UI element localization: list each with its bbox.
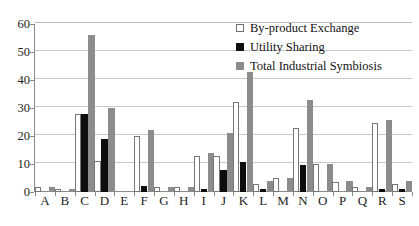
x-tick-mark bbox=[293, 192, 294, 196]
bar-group bbox=[114, 24, 134, 192]
bar bbox=[134, 136, 140, 192]
bar bbox=[81, 114, 87, 192]
x-tick-label: O bbox=[318, 194, 327, 207]
x-tick-label: E bbox=[120, 194, 128, 207]
x-tick-label: A bbox=[40, 194, 49, 207]
legend-item: By-product Exchange bbox=[236, 21, 382, 35]
bar-group bbox=[392, 24, 412, 192]
bar bbox=[372, 123, 378, 192]
bar-group bbox=[194, 24, 214, 192]
bar bbox=[273, 178, 279, 192]
bar bbox=[392, 184, 398, 192]
bar bbox=[253, 184, 259, 192]
filled-gray-square-icon bbox=[236, 62, 244, 70]
bar-chart: 0102030405060 ABCDEFGHIJKLMNOPQRS By-pro… bbox=[0, 0, 419, 226]
bar bbox=[194, 156, 200, 192]
x-tick-mark bbox=[114, 192, 115, 196]
bar bbox=[141, 186, 147, 192]
x-tick-label: R bbox=[378, 194, 387, 207]
legend-item-label: Total Industrial Symbiosis bbox=[250, 60, 382, 73]
x-tick-label: D bbox=[100, 194, 109, 207]
x-axis: ABCDEFGHIJKLMNOPQRS bbox=[35, 194, 412, 216]
bar-group bbox=[154, 24, 174, 192]
x-tick-label: I bbox=[201, 194, 205, 207]
x-tick-mark bbox=[194, 192, 195, 196]
x-tick-mark bbox=[412, 192, 413, 196]
bar bbox=[293, 128, 299, 192]
x-tick-mark bbox=[352, 192, 353, 196]
x-tick-mark bbox=[174, 192, 175, 196]
bar-group bbox=[134, 24, 154, 192]
x-tick-mark bbox=[154, 192, 155, 196]
bar bbox=[75, 114, 81, 192]
x-tick-mark bbox=[214, 192, 215, 196]
bar bbox=[220, 170, 226, 192]
x-tick-mark bbox=[75, 192, 76, 196]
x-tick-label: J bbox=[221, 194, 226, 207]
x-tick-mark bbox=[273, 192, 274, 196]
open-square-icon bbox=[236, 24, 244, 32]
x-tick-label: G bbox=[159, 194, 168, 207]
x-tick-mark bbox=[333, 192, 334, 196]
x-tick-label: S bbox=[398, 194, 405, 207]
bar-group bbox=[95, 24, 115, 192]
x-tick-label: N bbox=[298, 194, 307, 207]
x-tick-label: B bbox=[60, 194, 69, 207]
bar-group bbox=[174, 24, 194, 192]
y-tick-label: 30 bbox=[18, 102, 31, 115]
bar bbox=[240, 162, 246, 192]
y-axis: 0102030405060 bbox=[0, 24, 30, 192]
chart-legend: By-product ExchangeUtility SharingTotal … bbox=[236, 21, 382, 73]
y-tick-label: 20 bbox=[18, 130, 31, 143]
x-tick-mark bbox=[95, 192, 96, 196]
y-tick-label: 40 bbox=[18, 74, 31, 87]
bar-group bbox=[75, 24, 95, 192]
bar bbox=[213, 156, 219, 192]
x-tick-mark bbox=[233, 192, 234, 196]
legend-item-label: Utility Sharing bbox=[250, 41, 325, 54]
bar bbox=[300, 165, 306, 192]
x-tick-mark bbox=[313, 192, 314, 196]
bar bbox=[233, 102, 239, 192]
x-tick-label: H bbox=[179, 194, 188, 207]
legend-item-label: By-product Exchange bbox=[250, 22, 359, 35]
bar bbox=[313, 164, 319, 192]
y-tick-label: 50 bbox=[18, 46, 31, 59]
bar-group bbox=[55, 24, 75, 192]
bar bbox=[101, 139, 107, 192]
x-tick-label: F bbox=[141, 194, 148, 207]
x-tick-label: Q bbox=[358, 194, 367, 207]
x-tick-mark bbox=[392, 192, 393, 196]
bar bbox=[94, 161, 100, 192]
x-tick-label: C bbox=[80, 194, 89, 207]
x-tick-mark bbox=[372, 192, 373, 196]
x-tick-mark bbox=[253, 192, 254, 196]
y-tick-label: 10 bbox=[18, 158, 31, 171]
bar-group bbox=[214, 24, 234, 192]
bar bbox=[406, 181, 412, 192]
bar bbox=[332, 182, 338, 192]
x-tick-mark bbox=[55, 192, 56, 196]
filled-black-square-icon bbox=[236, 43, 244, 51]
bar bbox=[201, 189, 207, 192]
x-tick-mark bbox=[35, 192, 36, 196]
x-tick-label: L bbox=[259, 194, 267, 207]
x-tick-label: K bbox=[239, 194, 248, 207]
bar-group bbox=[35, 24, 55, 192]
x-tick-label: M bbox=[277, 194, 289, 207]
y-tick-mark bbox=[30, 192, 34, 193]
x-tick-mark bbox=[134, 192, 135, 196]
bar bbox=[260, 189, 266, 192]
legend-item: Total Industrial Symbiosis bbox=[236, 59, 382, 73]
legend-item: Utility Sharing bbox=[236, 40, 382, 54]
bar bbox=[379, 189, 385, 192]
y-tick-label: 60 bbox=[18, 18, 31, 31]
x-tick-label: P bbox=[339, 194, 346, 207]
bar bbox=[399, 189, 405, 192]
